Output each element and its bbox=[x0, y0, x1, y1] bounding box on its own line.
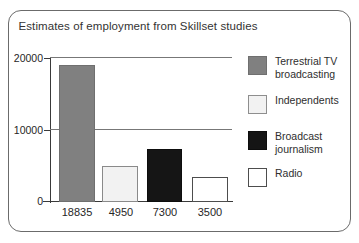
y-tick-label-0: 0 bbox=[0, 195, 43, 207]
legend-item-radio[interactable]: Radio bbox=[248, 167, 302, 187]
y-tick-label-20000: 20000 bbox=[0, 52, 43, 64]
legend-item-broadcast-journalism[interactable]: Broadcast journalism bbox=[248, 130, 323, 155]
legend-item-terrestrial-tv-broadcasting[interactable]: Terrestrial TV broadcasting bbox=[248, 55, 337, 80]
bar-independents[interactable] bbox=[102, 166, 138, 202]
x-tick-label-0: 18835 bbox=[54, 206, 100, 218]
legend-label-broadcast-journalism: Broadcast journalism bbox=[275, 130, 323, 155]
y-tick-label-10000: 10000 bbox=[0, 124, 43, 136]
legend-item-independents[interactable]: Independents bbox=[248, 94, 339, 114]
x-tick-label-1: 4950 bbox=[98, 206, 144, 218]
chart-figure: Estimates of employment from Skillset st… bbox=[0, 0, 359, 243]
legend-swatch-icon-radio bbox=[248, 168, 267, 187]
bar-radio[interactable] bbox=[192, 177, 228, 202]
legend-swatch-icon-broadcast-journalism bbox=[248, 131, 267, 150]
plot-area bbox=[50, 57, 232, 202]
y-axis-labels: 20000 10000 0 bbox=[0, 0, 43, 243]
x-tick-label-3: 3500 bbox=[187, 206, 233, 218]
x-tick-label-2: 7300 bbox=[142, 206, 188, 218]
legend-label-radio: Radio bbox=[275, 167, 302, 180]
chart-title: Estimates of employment from Skillset st… bbox=[8, 20, 268, 32]
legend-swatch-icon-terrestrial-tv-broadcasting bbox=[248, 56, 267, 75]
gridline-20000 bbox=[50, 57, 232, 58]
legend-label-terrestrial-tv-broadcasting: Terrestrial TV broadcasting bbox=[275, 55, 337, 80]
bar-broadcast-journalism[interactable] bbox=[147, 149, 182, 202]
legend-swatch-icon-independents bbox=[248, 95, 267, 114]
legend-label-independents: Independents bbox=[275, 94, 339, 107]
bar-terrestrial-tv-broadcasting[interactable] bbox=[59, 65, 95, 202]
